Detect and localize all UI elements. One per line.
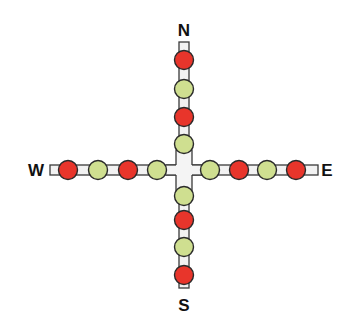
south-circle-4 <box>175 266 194 285</box>
west-circle-2 <box>89 161 108 180</box>
north-circle-3 <box>175 108 194 127</box>
west-label: W <box>28 162 44 179</box>
east-circle-3 <box>258 161 277 180</box>
west-circle-1 <box>59 161 78 180</box>
north-circle-4 <box>175 135 194 154</box>
east-circle-1 <box>201 161 220 180</box>
west-circle-3 <box>119 161 138 180</box>
east-circle-4 <box>287 161 306 180</box>
west-circle-4 <box>148 161 167 180</box>
east-label: E <box>321 162 332 179</box>
south-circle-2 <box>175 211 194 230</box>
north-label: N <box>178 22 190 39</box>
compass-cross-diagram: N S W E <box>0 0 355 336</box>
east-circle-2 <box>230 161 249 180</box>
north-circle-2 <box>175 80 194 99</box>
north-circle-1 <box>175 51 194 70</box>
cross-svg <box>0 0 355 336</box>
south-circle-1 <box>175 187 194 206</box>
south-circle-3 <box>175 238 194 257</box>
south-label: S <box>178 297 189 314</box>
